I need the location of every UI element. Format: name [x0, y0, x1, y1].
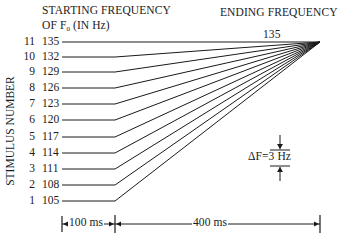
glide-line	[62, 42, 320, 57]
timescale-100ms-label: 100 ms	[68, 216, 104, 228]
delta-frequency-label: ΔF=3 Hz	[248, 150, 291, 162]
timescale-400ms-label: 400 ms	[192, 216, 228, 228]
glide-line	[62, 42, 320, 153]
delta-frequency-value: 3 Hz	[269, 150, 291, 162]
